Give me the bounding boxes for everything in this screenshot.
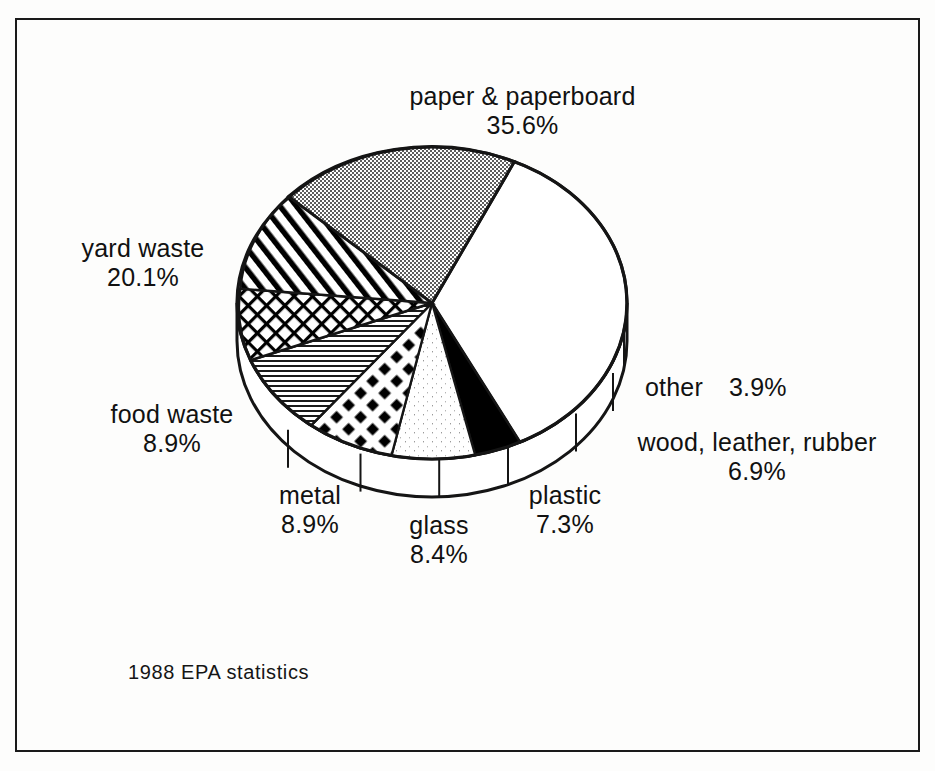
label-wood-leather-rubber: wood, leather, rubber 6.9%: [597, 428, 917, 485]
label-plastic: plastic 7.3%: [506, 481, 624, 538]
label-food-waste-value: 8.9%: [93, 429, 251, 458]
label-plastic-value: 7.3%: [506, 510, 624, 539]
label-other: other3.9%: [645, 373, 865, 402]
label-paper-paperboard-value: 35.6%: [390, 111, 655, 140]
label-paper-paperboard: paper & paperboard 35.6%: [390, 82, 655, 139]
label-glass: glass 8.4%: [384, 511, 494, 568]
label-glass-value: 8.4%: [384, 540, 494, 569]
label-other-value: 3.9%: [729, 373, 787, 402]
label-wood-leather-rubber-value: 6.9%: [597, 457, 917, 486]
label-plastic-name: plastic: [529, 481, 601, 509]
label-paper-paperboard-name: paper & paperboard: [410, 82, 636, 110]
label-food-waste-name: food waste: [111, 400, 234, 428]
label-food-waste: food waste 8.9%: [93, 400, 251, 457]
label-yard-waste-name: yard waste: [82, 234, 205, 262]
label-metal: metal 8.9%: [250, 481, 370, 538]
label-other-name: other: [645, 373, 703, 402]
label-metal-value: 8.9%: [250, 510, 370, 539]
label-glass-name: glass: [409, 511, 468, 539]
label-yard-waste: yard waste 20.1%: [48, 234, 238, 291]
figure-caption: 1988 EPA statistics: [128, 661, 309, 684]
label-yard-waste-value: 20.1%: [48, 263, 238, 292]
chart-stage: paper & paperboard 35.6% yard waste 20.1…: [0, 0, 935, 771]
label-metal-name: metal: [279, 481, 341, 509]
label-wood-leather-rubber-name: wood, leather, rubber: [637, 428, 876, 456]
